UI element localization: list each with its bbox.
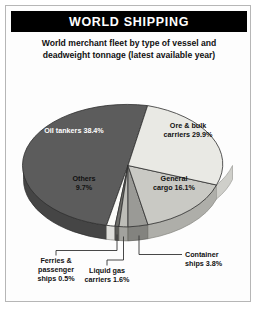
slice-label-oil-tankers: Oil tankers 38.4% [24,126,124,135]
title-bar: WORLD SHIPPING [11,11,247,32]
chart-subtitle: World merchant fleet by type of vessel a… [16,38,242,61]
chart-card: WORLD SHIPPING World merchant fleet by t… [5,5,251,302]
slice-label-others: Others 9.7% [55,174,113,192]
slice-label-ore-bulk: Ore & bulk carriers 29.9% [146,121,230,139]
callout-label-container: Container ships 3.8% [185,250,247,268]
page-title: WORLD SHIPPING [69,15,189,29]
chart-subtitle-line-2: deadweight tonnage (latest available yea… [16,50,242,62]
pie-side-container [128,225,148,241]
pie-side-others [107,225,116,240]
slice-label-general-cargo: General cargo 16.1% [136,174,212,192]
pie-chart: Oil tankers 38.4% Ore & bulk carriers 29… [6,64,250,302]
chart-subtitle-line-1: World merchant fleet by type of vessel a… [16,38,242,50]
callout-label-liquid-gas: Liquid gas carriers 1.6% [72,266,142,284]
